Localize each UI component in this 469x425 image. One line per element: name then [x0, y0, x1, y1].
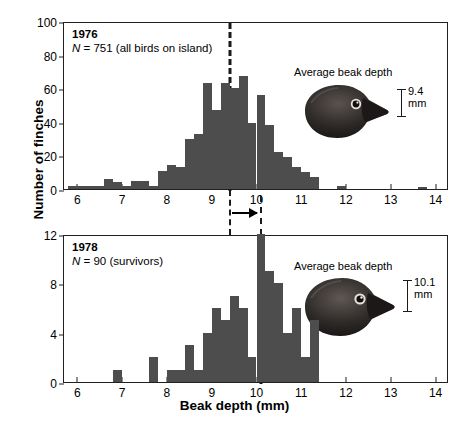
- y-tick-mark: [59, 23, 64, 24]
- x-tick-label: 11: [295, 193, 307, 207]
- histogram-bar: [283, 157, 292, 189]
- histogram-bar: [292, 167, 301, 189]
- histogram-bar: [95, 186, 104, 189]
- histogram-bar: [131, 181, 140, 189]
- mean-guide-1978: [260, 196, 262, 235]
- histogram-bar: [239, 76, 248, 189]
- x-axis-title: Beak depth (mm): [0, 398, 469, 413]
- x-tick-mark: [435, 184, 436, 189]
- y-tick-mark: [59, 123, 64, 124]
- x-tick-label: 6: [74, 386, 81, 400]
- histogram-bar: [140, 181, 149, 189]
- histogram-bar: [239, 308, 248, 382]
- y-tick-label: 12: [23, 229, 64, 243]
- x-tick-label: 10: [250, 386, 263, 400]
- histogram-bar: [257, 95, 266, 189]
- histogram-bar: [230, 296, 239, 382]
- x-tick-label: 14: [429, 386, 442, 400]
- histogram-bar: [248, 357, 257, 382]
- y-tick-label: 100: [23, 16, 64, 30]
- beak-depth-value-1976: 9.4 mm: [408, 85, 426, 109]
- x-tick-mark: [435, 377, 436, 382]
- selection-shift-arrow: [232, 212, 257, 214]
- y-tick-label: 8: [23, 278, 64, 292]
- histogram-bar: [149, 186, 158, 189]
- histogram-bar: [104, 179, 113, 189]
- finch-head-photo-1976: [301, 81, 391, 143]
- beak-caption-1976: Average beak depth: [294, 66, 392, 78]
- histogram-bar: [194, 134, 203, 189]
- histogram-bar: [283, 333, 292, 382]
- x-tick-label: 12: [339, 193, 352, 207]
- y-tick-mark: [59, 56, 64, 57]
- histogram-bar: [337, 186, 346, 189]
- histogram-bar: [122, 186, 131, 189]
- histogram-bar: [113, 182, 122, 189]
- histogram-bar: [265, 125, 274, 189]
- plot-area-1978: 1978 N = 90 (survivors) Average beak dep…: [63, 235, 448, 383]
- histogram-bar: [113, 370, 122, 382]
- x-tick-label: 11: [295, 386, 307, 400]
- x-tick-label: 8: [164, 193, 171, 207]
- y-tick-label: 4: [23, 328, 64, 342]
- x-tick-mark: [390, 377, 391, 382]
- histogram-bar: [274, 152, 283, 189]
- x-tick-label: 9: [208, 193, 215, 207]
- histogram-bar: [418, 187, 427, 189]
- histogram-bar: [301, 357, 310, 382]
- histogram-bar: [149, 357, 158, 382]
- y-tick-mark: [59, 90, 64, 91]
- x-tick-mark: [390, 184, 391, 189]
- beak-depth-bar-1978: [407, 280, 408, 312]
- histogram-bar: [203, 83, 212, 189]
- y-tick-label: 0: [23, 184, 64, 198]
- panel-n-1976: NN = 751 (all birds on island) = 751 (al…: [72, 42, 212, 54]
- histogram-bar: [185, 139, 194, 189]
- x-tick-label: 7: [119, 386, 126, 400]
- histogram-bar: [194, 370, 203, 382]
- beak-depth-value-1978: 10.1 mm: [414, 276, 435, 300]
- mean-guide-1976: [229, 190, 231, 235]
- plot-area-1976: 1976 NN = 751 (all birds on island) = 75…: [63, 22, 448, 190]
- histogram-bar: [167, 370, 176, 382]
- histogram-bar: [265, 271, 274, 382]
- y-tick-mark: [59, 236, 64, 237]
- panel-annotation-1978: 1978 N = 90 (survivors): [72, 241, 163, 267]
- y-tick-label: 60: [23, 83, 64, 97]
- histogram-bar: [167, 165, 176, 189]
- y-tick-label: 40: [23, 117, 64, 131]
- histogram-bar: [230, 88, 239, 189]
- x-tick-mark: [346, 377, 347, 382]
- histogram-bar: [221, 83, 230, 189]
- histogram-bar: [248, 123, 257, 189]
- histogram-bar: [203, 333, 212, 382]
- x-tick-label: 9: [208, 386, 215, 400]
- y-tick-label: 0: [23, 377, 64, 391]
- x-tick-label: 13: [384, 193, 397, 207]
- x-tick-label: 8: [164, 386, 171, 400]
- histogram-bar: [310, 177, 319, 189]
- beak-depth-bar-1976: [401, 89, 402, 117]
- y-tick-label: 20: [23, 150, 64, 164]
- histogram-bar: [310, 320, 319, 382]
- histogram-bar: [158, 171, 167, 189]
- x-tick-label: 12: [339, 386, 352, 400]
- histogram-bar: [301, 172, 310, 189]
- histogram-bar: [68, 186, 77, 189]
- panel-annotation-1976: 1976 NN = 751 (all birds on island) = 75…: [72, 28, 212, 54]
- x-tick-label: 14: [429, 193, 442, 207]
- x-tick-label: 6: [74, 193, 81, 207]
- x-tick-label: 7: [119, 193, 126, 207]
- panel-n-1978: N = 90 (survivors): [72, 255, 163, 267]
- panel-year-1978: 1978: [72, 241, 163, 253]
- y-tick-mark: [59, 157, 64, 158]
- beak-caption-1978: Average beak depth: [294, 260, 392, 272]
- panel-year-1976: 1976: [72, 28, 212, 40]
- histogram-bar: [176, 370, 185, 382]
- histogram-bar: [77, 186, 86, 189]
- y-tick-mark: [59, 384, 64, 385]
- figure-canvas: Number of finches Beak depth (mm) 1976 N…: [0, 0, 469, 425]
- x-tick-mark: [77, 377, 78, 382]
- histogram-bar: [212, 308, 221, 382]
- y-tick-label: 80: [23, 50, 64, 64]
